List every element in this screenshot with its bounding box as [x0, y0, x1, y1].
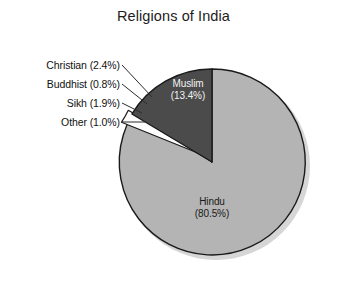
slice-label-muslim-value: (13.4%): [148, 90, 228, 102]
slice-callout-christian[interactable]: Christian (2.4%): [46, 59, 120, 71]
slice-label-hindu[interactable]: Hindu (80.5%): [172, 196, 252, 220]
slice-callout-sikh[interactable]: Sikh (1.9%): [67, 97, 120, 109]
pie-chart-graphic: [0, 0, 347, 304]
slice-label-muslim-name: Muslim: [148, 78, 228, 90]
slice-label-muslim[interactable]: Muslim (13.4%): [148, 78, 228, 102]
slice-callout-buddhist[interactable]: Buddhist (0.8%): [47, 78, 120, 90]
slice-callout-other[interactable]: Other (1.0%): [61, 116, 120, 128]
slice-label-hindu-name: Hindu: [172, 196, 252, 208]
slice-label-hindu-value: (80.5%): [172, 208, 252, 220]
pie-chart-figure: Religions of India Christian (2.4%) Budd…: [0, 0, 347, 304]
